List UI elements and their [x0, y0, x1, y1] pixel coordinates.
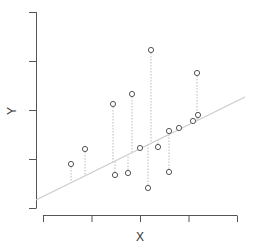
data-point	[112, 172, 117, 177]
x-axis-label: X	[136, 230, 144, 244]
data-point	[195, 112, 200, 117]
data-point	[129, 91, 134, 96]
data-point	[110, 101, 115, 106]
residual-lines	[71, 50, 198, 188]
data-point	[155, 144, 160, 149]
x-axis	[43, 216, 238, 223]
data-point	[194, 70, 199, 75]
scatter-plot: X Y	[0, 0, 254, 250]
data-point	[125, 170, 130, 175]
data-point	[166, 128, 171, 133]
data-point	[166, 169, 171, 174]
data-point	[148, 47, 153, 52]
data-point	[145, 185, 150, 190]
data-point	[176, 125, 181, 130]
y-axis	[29, 12, 37, 209]
data-point	[82, 146, 87, 151]
data-point	[190, 118, 195, 123]
data-points	[68, 47, 200, 190]
y-axis-label: Y	[5, 107, 19, 115]
data-point	[68, 161, 73, 166]
data-point	[137, 145, 142, 150]
